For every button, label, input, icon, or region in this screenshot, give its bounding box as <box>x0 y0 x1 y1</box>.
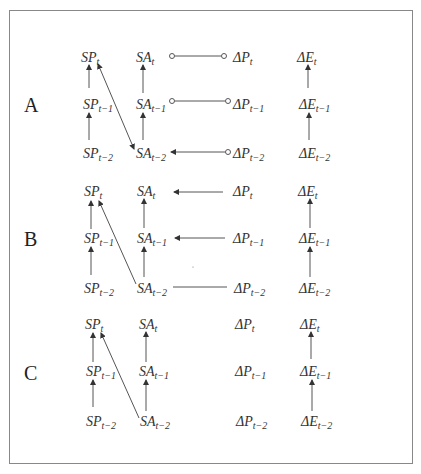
node-dp-t: ΔPt <box>234 317 255 334</box>
node-dp-t2: ΔPt−2 <box>235 414 267 431</box>
circle-endpoint-icon <box>226 150 231 155</box>
stray-dot <box>192 266 193 267</box>
circle-endpoint-icon <box>222 54 227 59</box>
node-de-t2: ΔEt−2 <box>298 281 330 298</box>
circle-endpoint-icon <box>170 99 175 104</box>
panel-c: C SPt SAt ΔPt ΔEt SPt−1 SAt−1 ΔPt−1 ΔEt−… <box>24 317 332 431</box>
node-sa-t: SAt <box>136 50 155 67</box>
node-dp-t: ΔPt <box>232 184 253 201</box>
node-sa-t1: SAt−1 <box>137 231 167 248</box>
panel-b: B SPt SAt ΔPt ΔEt SPt−1 SAt−1 ΔPt−1 ΔEt−… <box>24 184 330 298</box>
node-de-t: ΔEt <box>296 50 317 67</box>
circle-endpoint-icon <box>226 99 231 104</box>
node-de-t1: ΔEt−1 <box>298 97 330 114</box>
panel-a: A SPt SAt ΔPt ΔEt SPt−1 SAt−1 ΔPt−1 ΔEt−… <box>24 50 330 163</box>
node-dp-t1: ΔPt−1 <box>232 231 264 248</box>
node-dp-t1: ΔPt−1 <box>232 97 264 114</box>
node-sa-t: SAt <box>139 317 158 334</box>
node-sp-t2: SPt−2 <box>84 281 114 298</box>
panel-label-a: A <box>24 94 39 116</box>
node-sa-t1: SAt−1 <box>139 364 169 381</box>
node-sa-t: SAt <box>137 184 156 201</box>
panel-label-b: B <box>24 228 37 250</box>
panel-label-c: C <box>24 362 37 384</box>
node-dp-t2: ΔPt−2 <box>233 281 265 298</box>
node-sp-t: SPt <box>85 317 104 334</box>
node-sa-t2: SAt−2 <box>137 281 167 298</box>
node-sa-t2: SAt−2 <box>136 146 166 163</box>
node-sp-t1: SPt−1 <box>86 364 116 381</box>
node-de-t2: ΔEt−2 <box>300 414 332 431</box>
node-dp-t: ΔPt <box>232 50 253 67</box>
node-sp-t1: SPt−1 <box>83 97 113 114</box>
node-de-t: ΔEt <box>297 184 318 201</box>
node-de-t1: ΔEt−1 <box>299 364 331 381</box>
node-sa-t1: SAt−1 <box>136 97 166 114</box>
node-de-t1: ΔEt−1 <box>298 231 330 248</box>
node-dp-t2: ΔPt−2 <box>232 146 264 163</box>
node-dp-t1: ΔPt−1 <box>234 364 266 381</box>
node-sp-t2: SPt−2 <box>86 414 116 431</box>
node-sp-t1: SPt−1 <box>84 231 114 248</box>
circle-endpoint-icon <box>170 54 175 59</box>
node-sp-t: SPt <box>84 184 103 201</box>
node-de-t2: ΔEt−2 <box>298 146 330 163</box>
node-sp-t: SPt <box>81 50 100 67</box>
causal-diagram: A SPt SAt ΔPt ΔEt SPt−1 SAt−1 ΔPt−1 ΔEt−… <box>0 0 421 474</box>
node-sa-t2: SAt−2 <box>140 414 170 431</box>
node-de-t: ΔEt <box>299 317 320 334</box>
node-sp-t2: SPt−2 <box>83 146 113 163</box>
